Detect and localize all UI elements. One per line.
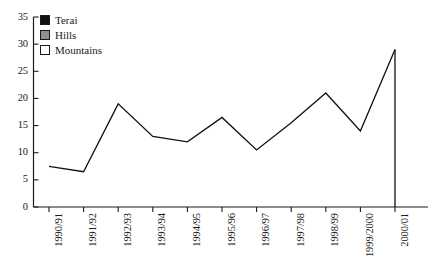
x-tick-label: 1999/2000 bbox=[365, 213, 376, 257]
legend-item-mountains: Mountains bbox=[40, 43, 102, 57]
chart-container: 05101520253035 1990/911991/921992/931993… bbox=[0, 0, 435, 279]
x-tick-label: 1996/97 bbox=[261, 213, 272, 247]
x-tick-label: 2000/01 bbox=[400, 213, 411, 247]
x-tick-label: 1992/93 bbox=[123, 213, 134, 247]
x-tick-label: 1993/94 bbox=[157, 213, 168, 247]
x-tick-label: 1991/92 bbox=[88, 213, 99, 247]
x-tick-label: 1994/95 bbox=[192, 213, 203, 247]
legend-swatch-mountains-icon bbox=[40, 45, 50, 55]
legend-item-hills: Hills bbox=[40, 28, 102, 42]
x-tick-label: 1998/99 bbox=[330, 213, 341, 247]
legend-label-hills: Hills bbox=[55, 30, 76, 41]
x-tick-label: 1995/96 bbox=[227, 213, 238, 247]
x-tick-label: 1990/91 bbox=[54, 213, 65, 247]
legend-swatch-terai-icon bbox=[40, 15, 50, 25]
legend-label-terai: Terai bbox=[55, 15, 77, 26]
x-tick-label: 1997/98 bbox=[296, 213, 307, 247]
legend-label-mountains: Mountains bbox=[55, 45, 102, 56]
chart-legend: Terai Hills Mountains bbox=[40, 13, 102, 58]
legend-swatch-hills-icon bbox=[40, 30, 50, 40]
legend-item-terai: Terai bbox=[40, 13, 102, 27]
